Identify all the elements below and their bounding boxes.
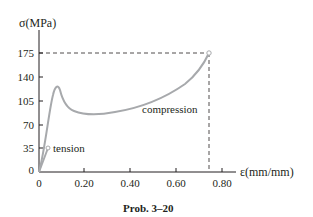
compression-annotation: compression (142, 104, 198, 115)
y-tick-label: 0 (12, 165, 34, 176)
y-tick-label: 140 (12, 72, 34, 83)
x-ticks (84, 168, 222, 172)
y-tick-label: 105 (12, 96, 34, 107)
x-tick-label: 0.20 (69, 178, 99, 189)
compression-end-marker (207, 51, 211, 55)
y-axis-label: σ(MPa) (19, 17, 56, 29)
x-tick-label: 0 (24, 178, 54, 189)
x-tick-label: 0.60 (161, 178, 191, 189)
y-tick-label: 35 (12, 143, 34, 154)
figure-caption: Prob. 3–20 (123, 202, 174, 214)
x-axis-label: ε(mm/mm) (240, 166, 294, 178)
y-tick-label: 175 (12, 48, 34, 59)
tension-annotation: tension (53, 143, 85, 154)
x-tick-label: 0.40 (115, 178, 145, 189)
y-ticks (39, 53, 43, 148)
x-tick-label: 0.80 (207, 178, 237, 189)
y-tick-label: 70 (12, 120, 34, 131)
tension-end-marker (46, 146, 50, 150)
